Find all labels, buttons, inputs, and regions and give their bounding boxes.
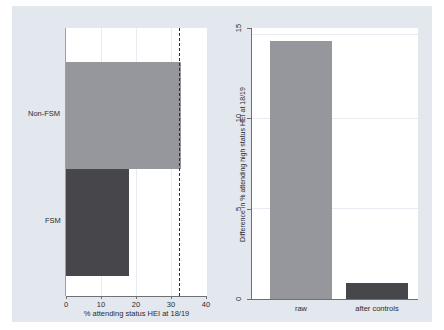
- left-xticklabel-30: 30: [167, 300, 175, 309]
- bar-non-fsm[interactable]: [66, 62, 181, 169]
- left-xtick-30: [171, 296, 172, 299]
- left-x-axis-label: % attending status HEI at 18/19: [66, 309, 207, 318]
- right-yticklabel-15: 15: [234, 21, 243, 35]
- reference-dashed-line: [179, 28, 180, 296]
- bar-fsm[interactable]: [66, 169, 129, 276]
- left-plot-area: [66, 28, 207, 296]
- right-ytick-15: [247, 28, 251, 29]
- right-plot-area: [252, 28, 418, 299]
- right-ytick-0: [247, 299, 251, 300]
- left-xticklabel-10: 10: [97, 300, 105, 309]
- right-bar-chart: 15 10 5 0 raw after controls Difference …: [222, 6, 432, 322]
- left-xtick-40: [206, 296, 207, 299]
- right-category-label-after-controls: after controls: [355, 304, 398, 313]
- right-gridline-15: [252, 34, 418, 35]
- left-xtick-20: [136, 296, 137, 299]
- bar-after-controls[interactable]: [346, 283, 408, 299]
- left-bar-chart: 0 10 20 30 40 % attending status HEI at …: [12, 6, 222, 322]
- right-category-label-raw: raw: [295, 304, 307, 313]
- right-y-axis-spine: [251, 28, 252, 299]
- left-xticklabel-40: 40: [202, 300, 210, 309]
- right-x-axis-spine: [251, 299, 418, 300]
- left-xticklabel-20: 20: [132, 300, 140, 309]
- right-y-axis-label: Difference in % attending high status HE…: [239, 75, 246, 255]
- left-xtick-10: [101, 296, 102, 299]
- figure-canvas: 0 10 20 30 40 % attending status HEI at …: [0, 0, 444, 330]
- right-ytick-5: [247, 209, 251, 210]
- left-xticklabel-0: 0: [64, 300, 68, 309]
- right-yticklabel-0: 0: [234, 292, 243, 306]
- left-xtick-0: [66, 296, 67, 299]
- bar-raw[interactable]: [270, 41, 332, 299]
- left-x-axis-spine: 0 10 20 30 40: [66, 296, 207, 297]
- left-y-axis-spine: [65, 28, 66, 296]
- right-ytick-10: [247, 118, 251, 119]
